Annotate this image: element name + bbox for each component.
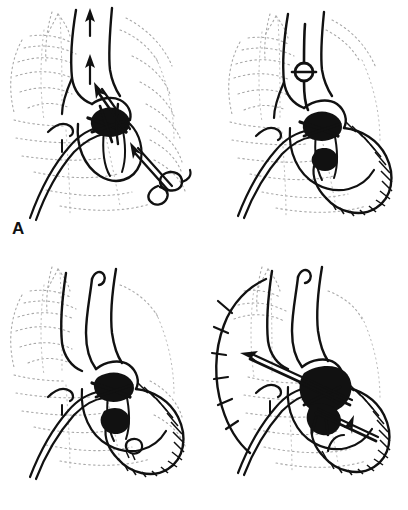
panel-c-drawing [0,255,204,510]
panel-a-drawing [0,0,204,255]
inflow-arrow-a [130,142,172,190]
flow-arrow-upper-a [85,8,95,36]
great-vessels-b [274,12,332,118]
vessel-clamp-b [292,24,316,110]
figure-root: A [0,0,408,510]
great-vessels-c [61,269,122,371]
panel-d: D [204,255,408,510]
panel-b-drawing [204,0,408,255]
ghost-anatomy-d [234,267,380,471]
panel-label-a: A [12,220,24,237]
panel-d-drawing [204,255,408,510]
flow-arrow-lower-a [85,54,95,84]
panel-c: C [0,255,204,510]
panel-a: A [0,0,204,255]
panel-b: B [204,0,408,255]
